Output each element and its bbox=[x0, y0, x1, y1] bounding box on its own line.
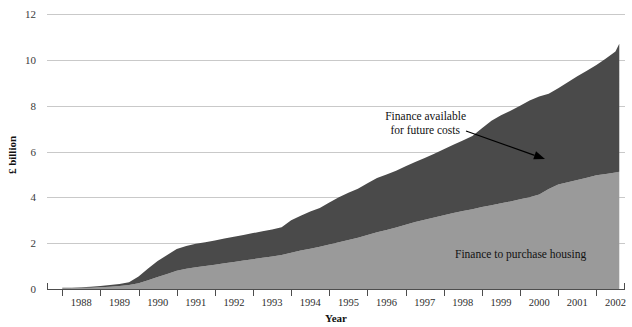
y-tick-label-12: 12 bbox=[25, 8, 36, 20]
x-tick-label-1994: 1994 bbox=[300, 297, 322, 308]
y-tick-label-8: 8 bbox=[31, 100, 37, 112]
x-tick-label-1995: 1995 bbox=[338, 297, 359, 308]
x-tick-label-1988: 1988 bbox=[71, 297, 92, 308]
x-tick-label-1991: 1991 bbox=[185, 297, 206, 308]
series-label-purchase-housing: Finance to purchase housing bbox=[455, 248, 587, 261]
x-tick-label-2001: 2001 bbox=[567, 297, 588, 308]
x-tick-label-1990: 1990 bbox=[147, 297, 168, 308]
x-tick-label-1996: 1996 bbox=[376, 297, 397, 308]
y-axis-title: £ billion bbox=[6, 136, 18, 174]
annotation-future-costs-line1: Finance available bbox=[385, 110, 466, 122]
x-tick-label-1999: 1999 bbox=[491, 297, 512, 308]
y-tick-label-2: 2 bbox=[31, 237, 37, 249]
y-tick-label-4: 4 bbox=[31, 191, 37, 203]
x-tick-label-1992: 1992 bbox=[223, 297, 244, 308]
y-tick-label-10: 10 bbox=[25, 54, 37, 66]
x-tick-label-1993: 1993 bbox=[262, 297, 283, 308]
y-tick-label-0: 0 bbox=[31, 283, 37, 295]
x-tick-label-1998: 1998 bbox=[452, 297, 473, 308]
x-tick-label-2002: 2002 bbox=[605, 297, 626, 308]
chart-container: 024681012 £ billion 19881989199019911992… bbox=[0, 0, 632, 327]
x-axis-title: Year bbox=[325, 312, 347, 324]
annotation-future-costs-line2: for future costs bbox=[390, 124, 460, 136]
x-tick-label-1989: 1989 bbox=[109, 297, 130, 308]
x-tick-label-1997: 1997 bbox=[414, 297, 435, 308]
x-tick-label-2000: 2000 bbox=[529, 297, 550, 308]
x-axis-tick-labels: 1988198919901991199219931994199519961997… bbox=[71, 297, 626, 308]
y-tick-label-6: 6 bbox=[31, 146, 37, 158]
area-chart-svg: 024681012 £ billion 19881989199019911992… bbox=[0, 0, 632, 327]
